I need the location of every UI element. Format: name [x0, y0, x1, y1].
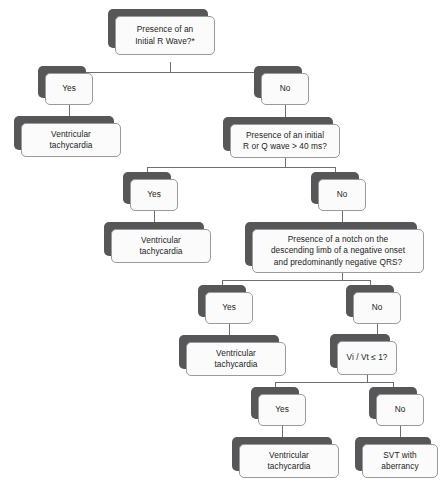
node-q1-no[interactable]: No: [254, 66, 302, 98]
node-label: Ventricular tachycardia: [215, 348, 258, 371]
node-label: No: [372, 302, 383, 314]
node-label: Presence of an Initial R Wave?*: [135, 24, 195, 47]
node-body: No: [318, 179, 366, 211]
node-body: Ventricular tachycardia: [186, 342, 286, 376]
node-label: Yes: [62, 83, 76, 95]
node-q2-no[interactable]: No: [311, 172, 359, 204]
node-vi-vt-question[interactable]: Vi / Vt ≤ 1?: [330, 334, 390, 368]
node-label: Ventricular tachycardia: [140, 235, 183, 258]
node-body: No: [261, 73, 309, 105]
node-body: No: [376, 394, 424, 426]
node-body: Yes: [205, 292, 253, 324]
node-body: Vi / Vt ≤ 1?: [337, 341, 397, 375]
node-body: Presence of an Initial R Wave?*: [115, 16, 215, 55]
connector-q3-bar: [222, 280, 370, 281]
node-q1-yes-result-vt[interactable]: Ventricular tachycardia: [14, 116, 114, 150]
node-initial-r-or-q-wave-question[interactable]: Presence of an initial R or Q wave > 40 …: [223, 117, 333, 151]
node-q2-yes-result-vt[interactable]: Ventricular tachycardia: [104, 222, 204, 256]
node-q2-yes[interactable]: Yes: [123, 172, 171, 204]
node-body: Ventricular tachycardia: [239, 444, 339, 478]
node-notch-question[interactable]: Presence of a notch on the descending li…: [245, 222, 417, 266]
node-q4-yes[interactable]: Yes: [251, 387, 299, 419]
connector-q1no-to-q2: [285, 105, 286, 117]
node-q4-no-result-svt[interactable]: SVT with aberrancy: [355, 437, 431, 471]
node-body: SVT with aberrancy: [362, 444, 438, 478]
node-q3-yes-result-vt[interactable]: Ventricular tachycardia: [179, 335, 279, 369]
node-label: Ventricular tachycardia: [50, 129, 93, 152]
node-body: Yes: [130, 179, 178, 211]
node-label: Presence of a notch on the descending li…: [271, 234, 405, 269]
connector-q4-bar: [275, 382, 393, 383]
node-label: Presence of an initial R or Q wave > 40 …: [243, 130, 327, 153]
node-body: Ventricular tachycardia: [21, 123, 121, 157]
node-q3-no[interactable]: No: [346, 285, 394, 317]
node-q3-yes[interactable]: Yes: [198, 285, 246, 317]
node-body: Yes: [258, 394, 306, 426]
node-body: Presence of an initial R or Q wave > 40 …: [230, 124, 340, 158]
node-body: Yes: [45, 73, 93, 105]
connector-q2-bar: [147, 167, 335, 168]
node-label: Vi / Vt ≤ 1?: [347, 352, 388, 364]
flowchart-canvas: Presence of an Initial R Wave?* Yes No V…: [0, 0, 444, 488]
node-label: Ventricular tachycardia: [268, 450, 311, 473]
node-label: No: [280, 83, 291, 95]
node-q1-yes[interactable]: Yes: [38, 66, 86, 98]
node-label: Yes: [275, 404, 289, 416]
node-label: No: [395, 404, 406, 416]
node-body: Presence of a notch on the descending li…: [252, 229, 424, 273]
node-body: Ventricular tachycardia: [111, 229, 211, 263]
node-body: No: [353, 292, 401, 324]
node-q4-yes-result-vt[interactable]: Ventricular tachycardia: [232, 437, 332, 471]
node-label: Yes: [222, 302, 236, 314]
node-label: No: [337, 189, 348, 201]
node-initial-r-wave-question[interactable]: Presence of an Initial R Wave?*: [108, 9, 208, 48]
node-label: SVT with aberrancy: [381, 450, 418, 473]
node-label: Yes: [147, 189, 161, 201]
connector-root-bar: [62, 72, 278, 73]
node-q4-no[interactable]: No: [369, 387, 417, 419]
